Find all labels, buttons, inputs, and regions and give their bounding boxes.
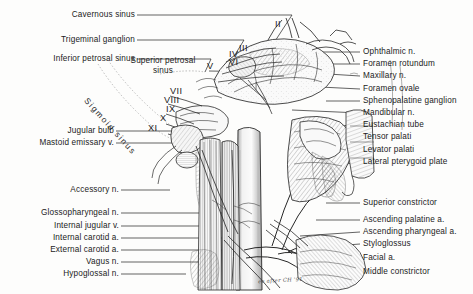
numeral-cn-6: VI	[229, 58, 238, 68]
label-superior-petrosal-sinus-line1: Superior petrosal	[118, 56, 208, 66]
label-vagus-nerve: Vagus n.	[0, 257, 119, 267]
label-trigeminal-ganglion: Trigeminal ganglion	[0, 35, 135, 45]
numeral-cn-5: V	[207, 62, 214, 72]
label-tensor-palati: Tensor palati	[363, 132, 411, 142]
jugular-bulb-group	[152, 125, 203, 184]
label-internal-jugular-vein: Internal jugular v.	[0, 221, 119, 231]
numeral-cn-10: X	[160, 114, 167, 124]
label-foramen-ovale: Foramen ovale	[363, 84, 420, 94]
label-superior-petrosal-sinus-line2: sinus	[118, 66, 208, 76]
middle-constrictor	[296, 235, 366, 290]
lower-left-muscle-fan	[190, 249, 219, 288]
label-cavernous-sinus: Cavernous sinus	[0, 10, 135, 20]
numeral-cn-2: II	[275, 20, 281, 30]
label-mandibular-nerve: Mandibular n.	[363, 108, 415, 118]
label-styloglossus: Styloglossus	[363, 239, 411, 249]
label-eustachian-tube: Eustachian tube	[363, 120, 424, 130]
label-sphenopalatine-ganglion: Sphenopalatine ganglion	[363, 96, 457, 106]
label-inferior-petrosal-sinus: Inferior petrosal sinus	[0, 54, 135, 64]
foramen-ovale-tick	[350, 73, 358, 74]
label-maxillary-nerve: Maxillary n.	[363, 71, 406, 81]
label-ophthalmic-nerve: Ophthalmic n.	[363, 47, 415, 57]
label-facial-artery: Facial a.	[363, 253, 395, 263]
label-hypoglossal-nerve: Hypoglossal n.	[0, 269, 119, 279]
internal-carotid-artery	[222, 141, 240, 290]
numeral-cn-9: IX	[166, 105, 175, 115]
label-superior-constrictor: Superior constrictor	[363, 198, 437, 208]
label-ascending-palatine-artery: Ascending palatine a.	[363, 215, 444, 225]
label-middle-constrictor: Middle constrictor	[363, 267, 430, 277]
label-mastoid-emissary-vein: Mastoid emissary v.	[0, 138, 114, 148]
label-external-carotid-artery: External carotid a.	[0, 245, 119, 255]
label-ascending-pharyngeal-artery: Ascending pharyngeal a.	[363, 227, 457, 237]
label-lateral-pterygoid-plate: Lateral pterygoid plate	[363, 157, 447, 167]
label-levator-palati: Levator palati	[363, 145, 414, 155]
numeral-cn-11: XI	[148, 124, 157, 134]
label-glossopharyngeal-nerve: Glossopharyngeal n.	[0, 208, 119, 218]
numeral-cn-3: III	[239, 44, 248, 54]
label-jugular-bulb: Jugular bulb	[0, 126, 114, 136]
label-foramen-rotundum: Foramen rotundum	[363, 59, 435, 69]
label-internal-carotid-artery: Internal carotid a.	[0, 233, 119, 243]
label-accessory-nerve: Accessory n.	[0, 185, 119, 195]
anatomical-figure: Cavernous sinus Trigeminal ganglion Infe…	[0, 0, 473, 294]
